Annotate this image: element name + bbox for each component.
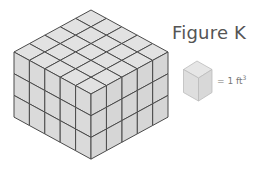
legend-equals: = 1 ft xyxy=(217,76,243,86)
unit-cube-icon xyxy=(184,61,213,101)
legend-exponent: 3 xyxy=(243,74,247,81)
cube-prism-5x5x3 xyxy=(14,10,168,159)
legend-label: = 1 ft3 xyxy=(217,74,246,86)
figure-title: Figure K xyxy=(172,22,246,43)
